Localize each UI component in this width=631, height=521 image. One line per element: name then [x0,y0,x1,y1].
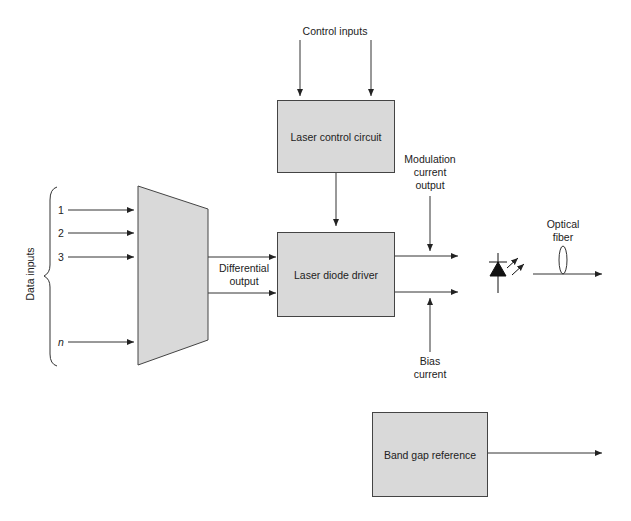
data-inputs-label: Data inputs [24,244,37,304]
data-input-2-label: 2 [58,227,64,240]
data-input-1-label: 1 [58,204,64,217]
bias-line2: current [405,368,455,381]
differential-output-line1: Differential [212,262,276,275]
optical-line2: fiber [540,231,586,244]
laser-control-circuit-label: Laser control circuit [290,131,381,143]
laser-diode-label: Laser diode [471,297,526,309]
optical-line1: Optical [540,218,586,231]
modulation-line3: output [400,179,460,192]
bias-current-label: Bias current [405,355,455,381]
modulation-line2: current [400,166,460,179]
bias-line1: Bias [405,355,455,368]
modulation-current-label: Modulation current output [400,153,460,192]
multiplexer-block: Multiplexer [145,270,203,283]
differential-output-line2: output [212,275,276,288]
data-input-3-label: 3 [58,251,64,264]
optical-fiber-label: Optical fiber [540,218,586,244]
laser-diode-driver-label: Laser diode driver [294,269,378,281]
band-gap-reference-label: Band gap reference [384,449,476,461]
laser-control-circuit-block: Laser control circuit [277,100,395,173]
band-gap-reference-block: Band gap reference [372,412,488,497]
modulation-line1: Modulation [400,153,460,166]
data-input-n-label: n [58,336,64,349]
laser-diode-driver-block: Laser diode driver [277,232,395,317]
control-inputs-label: Control inputs [290,25,380,38]
differential-output-label: Differential output [212,262,276,288]
laser-diode-block: Laser diode [464,232,533,317]
